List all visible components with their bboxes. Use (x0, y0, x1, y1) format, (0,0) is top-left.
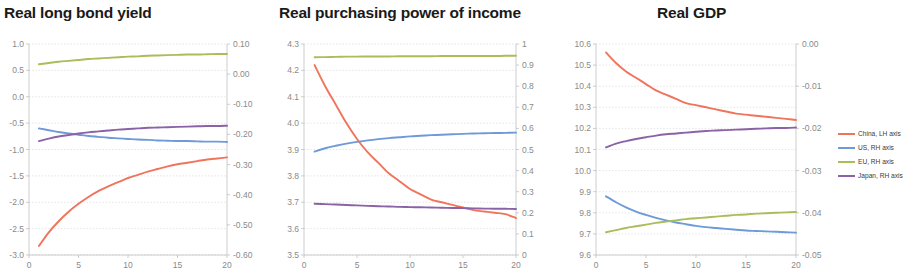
x-tick-label: 15 (734, 261, 758, 270)
series-line-eu (606, 212, 796, 232)
series-line-japan (315, 204, 516, 209)
y-tick-label-right: -0.02 (802, 124, 832, 133)
legend-item[interactable]: US, RH axis (838, 141, 911, 155)
legend-swatch-icon (838, 161, 855, 163)
x-tick-label: 10 (398, 261, 422, 270)
legend-swatch-icon (838, 133, 855, 135)
x-tick-label: 15 (451, 261, 475, 270)
series-line-china (315, 65, 516, 218)
chart-panel-real-gdp: Real GDP 10.610.510.410.310.210.110.09.9… (562, 0, 832, 279)
y-tick-label-right: -0.01 (802, 82, 832, 91)
x-tick-label: 0 (292, 261, 316, 270)
figure-root: Real long bond yield 1.00.50.0-0.5-1.0-1… (0, 0, 911, 279)
x-tick-label: 0 (584, 261, 608, 270)
y-tick-label-right: -0.30 (233, 161, 263, 170)
y-tick-label-left: 10.6 (564, 40, 591, 49)
y-tick-label-right: 0.1 (522, 230, 552, 239)
y-tick-label-left: 3.8 (272, 172, 299, 181)
series-line-eu (315, 56, 516, 57)
series-line-eu (39, 54, 227, 64)
y-tick-label-left: 10.0 (564, 167, 591, 176)
y-tick-label-left: 3.6 (272, 225, 299, 234)
x-tick-label: 20 (784, 261, 808, 270)
legend-item[interactable]: China, LH axis (838, 127, 911, 141)
chart-title-0: Real long bond yield (4, 4, 152, 22)
y-tick-label-left: -2.5 (0, 225, 24, 234)
y-tick-label-right: -0.50 (233, 221, 263, 230)
x-tick-label: 5 (345, 261, 369, 270)
y-tick-label-left: 0.0 (0, 93, 24, 102)
y-tick-label-left: 9.7 (564, 230, 591, 239)
y-tick-label-right: 0 (522, 251, 552, 260)
x-tick-label: 5 (634, 261, 658, 270)
plot-area-1 (304, 44, 516, 255)
y-tick-label-left: 1.0 (0, 40, 24, 49)
y-tick-label-right: -0.40 (233, 191, 263, 200)
x-tick-label: 10 (684, 261, 708, 270)
y-tick-label-right: -0.04 (802, 209, 832, 218)
y-tick-label-right: 0.7 (522, 103, 552, 112)
chart-panel-real-long-bond-yield: Real long bond yield 1.00.50.0-0.5-1.0-1… (0, 0, 268, 279)
x-tick-label: 20 (215, 261, 239, 270)
y-tick-label-left: 10.5 (564, 61, 591, 70)
series-line-china (39, 157, 227, 246)
y-tick-label-left: 10.3 (564, 103, 591, 112)
y-tick-label-left: 10.4 (564, 82, 591, 91)
x-tick-label: 5 (67, 261, 91, 270)
y-tick-label-left: -1.5 (0, 172, 24, 181)
x-tick-label: 15 (166, 261, 190, 270)
legend-item[interactable]: Japan, RH axis (838, 169, 911, 183)
y-tick-label-right: 0.00 (802, 40, 832, 49)
legend-swatch-icon (838, 147, 855, 149)
y-tick-label-left: -1.0 (0, 146, 24, 155)
plot-area-0 (29, 44, 227, 255)
chart-title-1: Real purchasing power of income (279, 4, 521, 22)
series-line-japan (606, 128, 796, 148)
y-tick-label-right: -0.60 (233, 251, 263, 260)
y-tick-label-right: 0.6 (522, 124, 552, 133)
y-tick-label-left: 3.5 (272, 251, 299, 260)
y-tick-label-left: 0.5 (0, 66, 24, 75)
y-tick-label-left: -2.0 (0, 198, 24, 207)
y-tick-label-left: 4.3 (272, 40, 299, 49)
y-tick-label-left: 3.9 (272, 146, 299, 155)
series-line-us (315, 133, 516, 152)
y-tick-label-right: 0.5 (522, 146, 552, 155)
y-tick-label-right: -0.05 (802, 251, 832, 260)
chart-canvas-0 (29, 44, 227, 255)
x-tick-label: 0 (17, 261, 41, 270)
y-tick-label-left: 9.9 (564, 188, 591, 197)
y-tick-label-right: 0.9 (522, 61, 552, 70)
legend-label: US, RH axis (858, 145, 894, 152)
y-tick-label-left: 10.2 (564, 124, 591, 133)
y-tick-label-left: 9.8 (564, 209, 591, 218)
chart-canvas-1 (304, 44, 516, 255)
chart-panel-real-purchasing-power-of-income: Real purchasing power of income 4.34.24.… (270, 0, 560, 279)
chart-canvas-2 (596, 44, 796, 255)
y-tick-label-left: 4.1 (272, 93, 299, 102)
y-tick-label-left: 3.7 (272, 198, 299, 207)
legend-label: Japan, RH axis (858, 173, 903, 180)
y-tick-label-right: 0.3 (522, 188, 552, 197)
y-tick-label-left: -0.5 (0, 119, 24, 128)
y-tick-label-left: 10.1 (564, 146, 591, 155)
plot-area-2 (596, 44, 796, 255)
y-tick-label-left: 4.0 (272, 119, 299, 128)
legend: China, LH axisUS, RH axisEU, RH axisJapa… (838, 127, 911, 183)
y-tick-label-right: 0.4 (522, 167, 552, 176)
y-tick-label-right: -0.03 (802, 167, 832, 176)
y-tick-label-left: 9.6 (564, 251, 591, 260)
y-tick-label-right: 0.10 (233, 40, 263, 49)
y-tick-label-left: 4.2 (272, 66, 299, 75)
legend-item[interactable]: EU, RH axis (838, 155, 911, 169)
y-tick-label-left: -3.0 (0, 251, 24, 260)
y-tick-label-right: -0.20 (233, 130, 263, 139)
y-tick-label-right: 0.2 (522, 209, 552, 218)
x-tick-label: 10 (116, 261, 140, 270)
y-tick-label-right: 0.00 (233, 70, 263, 79)
y-tick-label-right: 0.8 (522, 82, 552, 91)
chart-title-2: Real GDP (657, 4, 726, 22)
x-tick-label: 20 (504, 261, 528, 270)
legend-swatch-icon (838, 175, 855, 177)
y-tick-label-right: -0.10 (233, 100, 263, 109)
